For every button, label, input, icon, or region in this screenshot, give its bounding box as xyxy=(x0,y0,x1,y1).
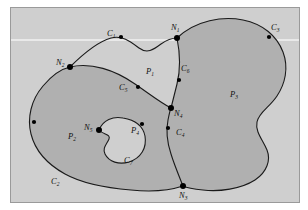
curve-marker-C2-dot xyxy=(32,120,36,124)
figure-panel: C1 C2 C3 C4 C5 C6 C7 P1 xyxy=(10,7,300,203)
curve-marker-C3-dot xyxy=(267,35,271,39)
curve-marker-C7-dot xyxy=(140,122,144,126)
node-N2-dot xyxy=(67,64,73,70)
label-C3: C3 xyxy=(271,22,280,33)
curve-marker-C4-dot xyxy=(166,126,170,130)
curve-marker-C6-dot xyxy=(177,78,181,82)
curve-C1-path xyxy=(70,37,177,67)
curve-marker-C5-dot xyxy=(136,85,140,89)
region-diagram-svg: C1 C2 C3 C4 C5 C6 C7 P1 xyxy=(11,8,300,203)
label-C1: C1 xyxy=(107,28,116,39)
node-N1-dot xyxy=(174,35,180,41)
label-N3: N3 xyxy=(178,190,188,201)
label-N1: N1 xyxy=(170,22,180,33)
label-N2: N2 xyxy=(55,57,65,68)
region-P3-shape xyxy=(167,19,286,191)
label-C2: C2 xyxy=(51,176,60,187)
node-N3-dot xyxy=(180,183,186,189)
node-N5-dot xyxy=(96,127,102,133)
curve-marker-C1-dot xyxy=(119,35,123,39)
label-P1: P1 xyxy=(145,66,154,77)
figure-root: C1 C2 C3 C4 C5 C6 C7 P1 xyxy=(0,0,308,210)
